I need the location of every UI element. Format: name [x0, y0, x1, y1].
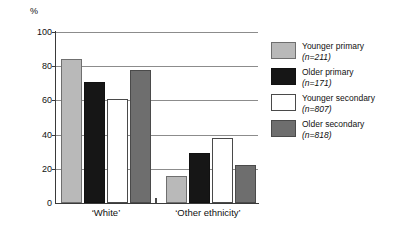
y-axis-tick-labels: 100 80 60 40 20 0 [22, 32, 52, 203]
bar-other-younger-primary [166, 176, 187, 203]
category-label-other: ‘Other ethnicity’ [175, 207, 240, 218]
y-axis-unit-label: % [30, 6, 38, 16]
legend-item-younger-secondary: Younger secondary (n=807) [271, 93, 399, 115]
y-tick-0: 0 [47, 198, 52, 208]
legend: Younger primary (n=211) Older primary (n… [271, 41, 399, 145]
x-axis-line [55, 203, 259, 204]
legend-n-younger-primary: (n=211) [302, 52, 331, 62]
legend-label-older-primary: Older primary [302, 67, 353, 78]
legend-label-older-secondary: Older secondary [302, 119, 364, 130]
y-tick-40: 40 [42, 130, 52, 140]
legend-item-younger-primary: Younger primary (n=211) [271, 41, 399, 63]
bar-other-older-secondary [235, 165, 256, 203]
legend-item-older-primary: Older primary (n=171) [271, 67, 399, 89]
legend-n-older-primary: (n=171) [302, 78, 332, 88]
legend-swatch-younger-primary [271, 42, 296, 59]
legend-label-younger-secondary: Younger secondary [302, 93, 375, 104]
legend-label-younger-primary: Younger primary [302, 41, 364, 52]
bar-other-younger-secondary [212, 138, 233, 203]
plot-area [56, 32, 258, 203]
bar-white-younger-secondary [107, 99, 128, 203]
y-tick-60: 60 [42, 95, 52, 105]
category-label-white: ‘White’ [92, 207, 121, 218]
bar-series-group [56, 32, 258, 203]
bar-white-older-secondary [130, 70, 151, 203]
legend-n-older-secondary: (n=818) [302, 130, 332, 140]
legend-swatch-younger-secondary [271, 94, 296, 111]
bar-other-older-primary [189, 153, 210, 203]
y-tick-100: 100 [37, 27, 52, 37]
legend-item-older-secondary: Older secondary (n=818) [271, 119, 399, 141]
y-tick-20: 20 [42, 164, 52, 174]
legend-n-younger-secondary: (n=807) [302, 104, 332, 114]
bar-white-older-primary [84, 82, 105, 203]
bar-chart: % 100 80 60 40 20 0 [0, 0, 401, 233]
group-separator-tick [155, 198, 157, 203]
bar-white-younger-primary [61, 59, 82, 203]
legend-swatch-older-primary [271, 68, 296, 85]
legend-swatch-older-secondary [271, 120, 296, 137]
y-tick-80: 80 [42, 61, 52, 71]
